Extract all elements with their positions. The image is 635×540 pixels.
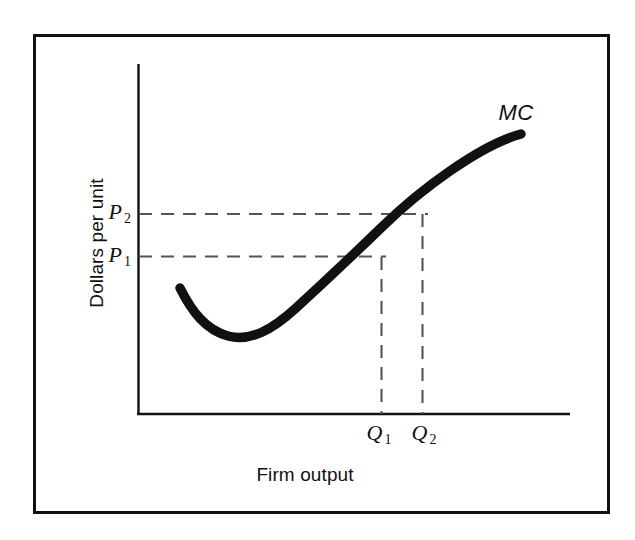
figure-root: Dollars per unit Firm output P2 P1 Q1 Q2… <box>0 0 635 540</box>
x-axis-title: Firm output <box>256 465 353 484</box>
quantity-tick-label-q2: Q2 <box>412 422 437 447</box>
quantity-tick-letter-q1: Q <box>367 420 383 445</box>
price-tick-letter-p1: P <box>109 242 122 267</box>
y-axis-title: Dollars per unit <box>87 178 106 307</box>
quantity-tick-letter-q2: Q <box>412 420 428 445</box>
price-tick-letter-p2: P <box>109 199 122 224</box>
quantity-tick-subscript-q1: 1 <box>384 432 391 447</box>
price-tick-subscript-p2: 2 <box>124 210 131 225</box>
price-tick-label-p2: P2 <box>109 201 131 226</box>
quantity-tick-label-q1: Q1 <box>367 422 392 447</box>
mc-curve-label: MC <box>498 102 533 124</box>
price-tick-label-p1: P1 <box>109 244 131 269</box>
price-tick-subscript-p1: 1 <box>124 253 131 268</box>
quantity-tick-subscript-q2: 2 <box>429 432 436 447</box>
